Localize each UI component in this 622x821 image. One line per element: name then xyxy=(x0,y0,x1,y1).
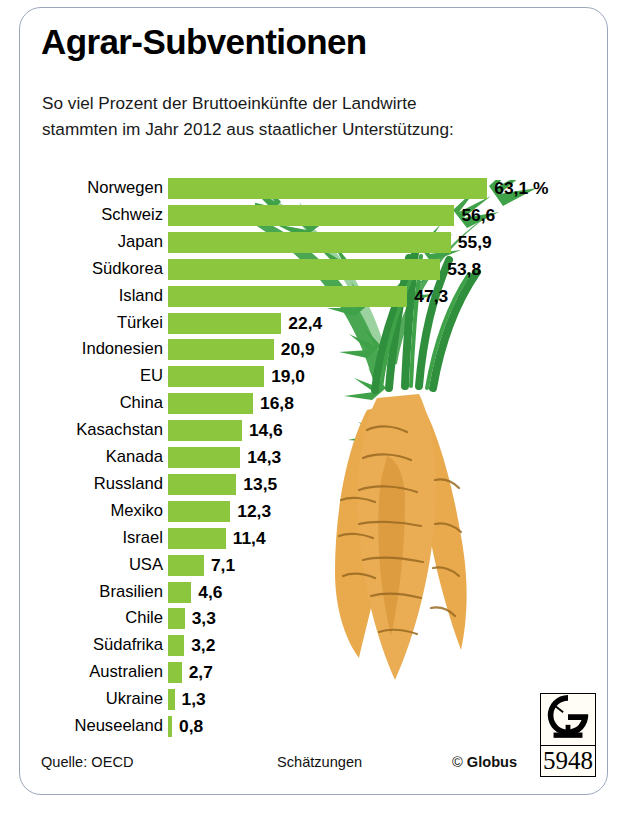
copyright-brand: Globus xyxy=(467,754,517,770)
globus-g-icon xyxy=(541,694,595,746)
subtitle-line-2: stammten im Jahr 2012 aus staatlicher Un… xyxy=(42,116,572,142)
globus-logo: 5948 xyxy=(540,693,596,777)
footer-note: Schätzungen xyxy=(277,754,362,770)
page-subtitle: So viel Prozent der Bruttoeinkünfte der … xyxy=(42,90,572,142)
subtitle-line-1: So viel Prozent der Bruttoeinkünfte der … xyxy=(42,93,417,113)
footer-source: Quelle: OECD xyxy=(41,754,133,770)
footer-copyright: © Globus xyxy=(452,754,517,770)
page-title: Agrar-Subventionen xyxy=(41,22,367,62)
infographic-root: Agrar-Subventionen So viel Prozent der B… xyxy=(0,0,622,821)
globus-logo-number: 5948 xyxy=(541,745,595,777)
copyright-symbol: © xyxy=(452,754,463,770)
